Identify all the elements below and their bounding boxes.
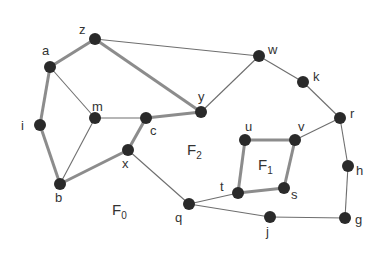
node-label-h: h [356,163,363,178]
node-label-u: u [245,119,252,134]
node-g [339,212,351,224]
node-label-y: y [198,89,205,104]
node-label-t: t [220,179,224,194]
node-label-b: b [55,190,62,205]
face-label-f2: F2 [187,141,202,161]
node-k [297,76,309,88]
node-label-g: g [355,212,362,227]
node-j [264,211,276,223]
edge-k-r [303,82,340,118]
edge-q-x [128,150,189,204]
planar-graph-diagram: zamcywkribxqtsuvhgj F0F1F2 [0,0,387,259]
node-w [253,50,265,62]
node-label-v: v [298,119,305,134]
node-label-z: z [79,22,86,37]
edge-z-a [50,39,95,67]
edge-c-y [146,112,201,118]
edge-v-s [284,140,295,188]
node-label-r: r [350,106,355,121]
edge-z-y [95,39,201,112]
node-u [239,134,251,146]
node-r [334,112,346,124]
node-z [89,33,101,45]
edge-a-m [50,67,95,118]
graph-nodes [34,33,354,224]
edge-g-j [270,217,345,218]
node-a [44,61,56,73]
node-h [342,160,354,172]
node-i [34,119,46,131]
node-y [195,106,207,118]
node-label-k: k [313,69,320,84]
node-label-s: s [291,187,298,202]
node-s [278,182,290,194]
node-label-m: m [92,99,103,114]
edge-t-u [238,140,245,193]
node-x [122,144,134,156]
face-label-f0: F0 [112,201,127,221]
node-label-x: x [122,156,129,171]
edge-z-w [95,39,259,56]
edge-j-q [189,204,270,217]
edge-q-t [189,193,238,204]
edge-a-i [40,67,50,125]
node-label-w: w [267,42,278,57]
edge-h-g [345,166,348,218]
node-q [183,198,195,210]
node-t [232,187,244,199]
edge-s-t [238,188,284,193]
node-b [54,178,66,190]
edge-w-k [259,56,303,82]
node-v [289,134,301,146]
node-label-i: i [21,118,24,133]
edge-b-x [60,150,128,184]
node-label-a: a [42,43,50,58]
edge-i-b [40,125,60,184]
node-label-c: c [150,123,157,138]
face-labels: F0F1F2 [112,141,273,221]
edge-r-h [340,118,348,166]
edge-w-y [201,56,259,112]
node-label-j: j [265,224,269,239]
face-label-f1: F1 [258,156,273,176]
node-label-q: q [175,210,182,225]
